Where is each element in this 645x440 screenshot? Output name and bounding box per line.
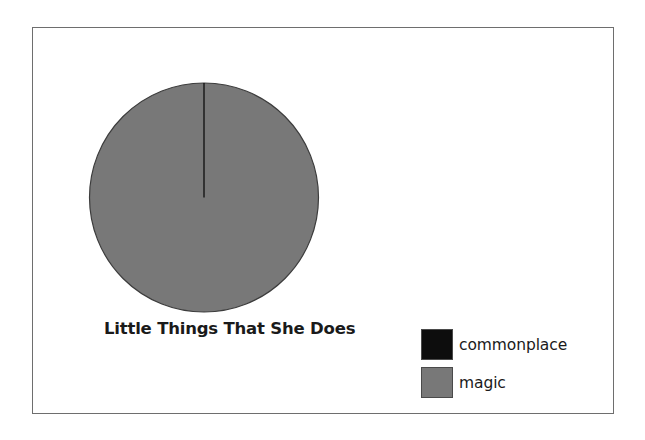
legend-label-magic: magic: [459, 374, 506, 392]
pie-chart: [89, 82, 319, 313]
chart-frame: Little Things That She Does commonplace …: [32, 27, 614, 414]
pie-chart-title: Little Things That She Does: [104, 319, 314, 338]
legend-label-commonplace: commonplace: [459, 336, 567, 354]
legend: commonplace magic: [421, 329, 611, 405]
legend-swatch-magic: [421, 367, 453, 398]
legend-item-commonplace[interactable]: commonplace: [421, 329, 611, 360]
legend-swatch-commonplace: [421, 329, 453, 360]
legend-item-magic[interactable]: magic: [421, 367, 611, 398]
pie-chart-svg: [89, 82, 319, 313]
